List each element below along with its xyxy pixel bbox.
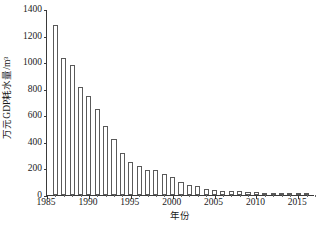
bar <box>178 182 183 195</box>
y-axis-tick-mark <box>44 169 47 170</box>
y-axis-tick-mark <box>44 116 47 117</box>
bar <box>128 162 133 195</box>
y-axis-tick-mark <box>44 90 47 91</box>
x-axis-minor-tick-mark <box>315 195 316 197</box>
y-axis-tick-label: 1200 <box>23 32 42 42</box>
bar <box>78 87 83 195</box>
bar <box>111 139 116 195</box>
x-axis-minor-tick-mark <box>156 195 157 197</box>
y-axis-tick-mark <box>44 10 47 11</box>
y-axis-tick-mark <box>44 143 47 144</box>
bar <box>86 96 91 195</box>
x-axis-minor-tick-mark <box>106 195 107 197</box>
x-axis-minor-tick-mark <box>97 195 98 197</box>
bar <box>70 65 75 195</box>
x-axis-minor-tick-mark <box>282 195 283 197</box>
x-axis-minor-tick-mark <box>139 195 140 197</box>
y-axis-tick-label: 1000 <box>23 58 42 68</box>
x-axis-tick-label: 1995 <box>120 198 139 208</box>
y-axis-tick-label: 400 <box>28 138 42 148</box>
x-axis-minor-tick-mark <box>148 195 149 197</box>
bar <box>153 170 158 195</box>
x-axis-minor-tick-mark <box>198 195 199 197</box>
bar <box>195 186 200 195</box>
bar <box>162 174 167 195</box>
y-axis-tick-labels: 0200400600800100012001400 <box>12 0 44 210</box>
y-axis-tick-label: 800 <box>28 85 42 95</box>
x-axis-title: 年份 <box>46 212 314 222</box>
plot-area <box>46 10 314 196</box>
x-axis-minor-tick-mark <box>55 195 56 197</box>
x-axis-tick-label: 2015 <box>288 198 307 208</box>
x-axis-minor-tick-mark <box>240 195 241 197</box>
x-axis-minor-tick-mark <box>181 195 182 197</box>
x-axis-minor-tick-mark <box>273 195 274 197</box>
bar <box>53 25 58 195</box>
y-axis-tick-mark <box>44 63 47 64</box>
y-axis-tick-label: 200 <box>28 165 42 175</box>
x-axis-minor-tick-mark <box>231 195 232 197</box>
x-axis-minor-tick-mark <box>114 195 115 197</box>
x-axis-minor-tick-mark <box>64 195 65 197</box>
y-axis-tick-label: 1400 <box>23 5 42 15</box>
bar <box>145 170 150 196</box>
x-axis-minor-tick-mark <box>265 195 266 197</box>
bar <box>170 177 175 195</box>
x-axis-tick-label: 1990 <box>78 198 97 208</box>
y-axis-tick-mark <box>44 37 47 38</box>
bar <box>187 185 192 195</box>
x-axis-minor-tick-mark <box>223 195 224 197</box>
chart-figure: 万元GDP耗水量/m³ 0200400600800100012001400 19… <box>0 0 327 234</box>
bar-series <box>47 10 314 195</box>
bar <box>103 126 108 195</box>
x-axis-minor-tick-mark <box>72 195 73 197</box>
x-axis-minor-tick-mark <box>189 195 190 197</box>
bar <box>95 109 100 195</box>
x-axis-tick-label: 2000 <box>162 198 181 208</box>
x-axis-tick-label: 2010 <box>246 198 265 208</box>
x-axis-tick-label: 2005 <box>204 198 223 208</box>
y-axis-tick-label: 600 <box>28 112 42 122</box>
x-axis-tick-label: 1985 <box>37 198 56 208</box>
x-axis-minor-tick-mark <box>307 195 308 197</box>
bar <box>137 166 142 195</box>
bar <box>120 153 125 196</box>
bar <box>61 58 66 195</box>
